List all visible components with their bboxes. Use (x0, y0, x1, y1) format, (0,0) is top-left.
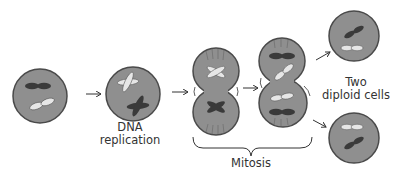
mitosis-label: Mitosis (211, 157, 291, 170)
label-line: diploid cells (316, 89, 396, 102)
two-diploid-cells-label: Two diploid cells (316, 76, 396, 102)
mitosis-brace (193, 137, 312, 156)
metaphase-cell (193, 48, 239, 135)
anaphase-cell (259, 38, 310, 127)
dna-replication-label: DNA replication (90, 121, 170, 147)
label-line: replication (90, 134, 170, 147)
arrow-icon (316, 52, 330, 60)
replicated-cell (106, 67, 160, 121)
daughter-cell-top (329, 11, 379, 61)
arrow-icon (313, 120, 326, 127)
parent-cell (13, 69, 67, 123)
daughter-cell-bottom (329, 113, 379, 163)
mitosis-diagram: DNA replication Mitosis Two diploid cell… (0, 0, 399, 174)
